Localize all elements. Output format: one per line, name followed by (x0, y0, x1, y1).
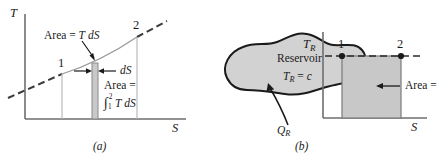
panel-b-state-1-label: 1 (338, 38, 344, 51)
reservoir-label: Reservoir (277, 53, 322, 65)
strip-area-annotation: Area = T dS (44, 30, 99, 42)
heat-subscript: R (285, 129, 290, 138)
panel-b-y-symbol: T (303, 37, 310, 51)
integral-lower-limit: 1 (108, 103, 112, 110)
differential-strip-area (92, 63, 98, 119)
panel-b-caption: (b) (295, 141, 308, 153)
panel-b-area-label: Area = (405, 80, 437, 92)
isothermal-area-rect (342, 56, 401, 118)
panel-b-state-2-point (398, 53, 404, 59)
integral-limits: 21 (108, 96, 115, 108)
panel-a-x-axis-label: S (172, 122, 178, 135)
heat-transfer-label: QR (277, 125, 290, 139)
panel-b-state-2-label: 2 (397, 38, 403, 51)
integral-upper-limit: 2 (109, 93, 113, 100)
panel-a-caption: (a) (93, 141, 106, 153)
reservoir-temp-equals: = (294, 70, 306, 82)
path-extension-left (8, 74, 62, 98)
panel-b-y-subscript: R (310, 43, 316, 53)
integral-area-expression: ∫21T dS (104, 95, 136, 110)
panel-b-state-1-point (339, 53, 345, 59)
panel-b-x-axis-label: S (411, 121, 417, 134)
ds-annotation: dS (120, 65, 132, 77)
panel-b-reservoir-diagram: Reservoir TR = c QR TR S 1 2 Area = (b) (215, 0, 437, 163)
panel-a-state-2-label: 2 (133, 19, 139, 32)
panel-b-y-axis-label: TR (303, 38, 315, 53)
panel-a-y-axis-label: T (10, 7, 17, 20)
reservoir-temperature-label: TR = c (283, 71, 312, 85)
panel-b-graphics (215, 0, 437, 163)
strip-area-prefix: Area = (44, 29, 79, 41)
integral-area-prefix: Area = (104, 80, 136, 92)
reservoir-temp-value: c (307, 70, 312, 82)
path-extension-right (137, 21, 167, 37)
figure-root: T S 1 2 Area = T dS dS Area = ∫21T dS (a… (0, 0, 437, 163)
strip-area-dS: dS (88, 29, 100, 41)
panel-a-state-1-label: 1 (58, 57, 64, 70)
strip-callout-arrow (82, 41, 95, 61)
integral-integrand-dS: dS (124, 97, 136, 109)
panel-a-ts-diagram: T S 1 2 Area = T dS dS Area = ∫21T dS (a… (0, 0, 215, 163)
